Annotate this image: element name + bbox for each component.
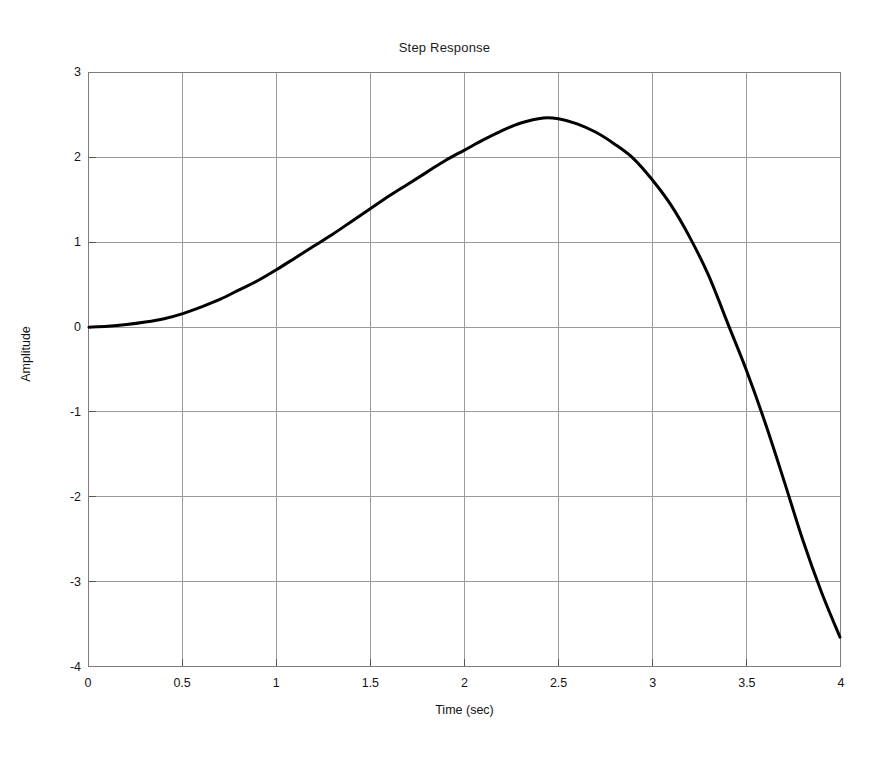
ytick-label: 2 [51, 150, 81, 164]
ytick-label: -4 [51, 660, 81, 674]
xtick-label: 0.5 [173, 676, 190, 690]
ytick-label: -3 [51, 575, 81, 589]
xtick-label: 1 [273, 676, 280, 690]
xtick-label: 3.5 [738, 676, 755, 690]
ytick-label: -2 [51, 490, 81, 504]
y-axis-tick-labels: 3 2 1 0 -1 -2 -3 -4 [47, 72, 81, 667]
y-axis-label: Amplitude [19, 304, 33, 404]
ytick-label: 0 [51, 320, 81, 334]
xtick-label: 3 [649, 676, 656, 690]
ytick-label: -1 [51, 405, 81, 419]
figure-canvas: Step Response 3 2 1 0 -1 -2 -3 -4 Amplit… [0, 0, 889, 759]
data-curve-layer [89, 73, 840, 666]
xtick-label: 4 [838, 676, 845, 690]
xtick-label: 0 [85, 676, 92, 690]
x-axis-label: Time (sec) [88, 703, 841, 717]
xtick-label: 1.5 [362, 676, 379, 690]
xtick-label: 2 [461, 676, 468, 690]
step-response-curve [89, 118, 840, 638]
ytick-label: 3 [51, 65, 81, 79]
xtick-label: 2.5 [550, 676, 567, 690]
x-axis-tick-labels: 0 0.5 1 1.5 2 2.5 3 3.5 4 [88, 676, 841, 696]
chart-title: Step Response [0, 40, 889, 55]
ytick-label: 1 [51, 235, 81, 249]
plot-area [88, 72, 841, 667]
